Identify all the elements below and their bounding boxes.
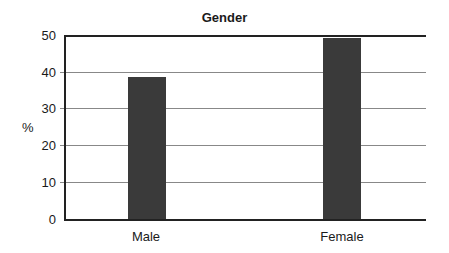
- gridline-10: [64, 182, 426, 183]
- y-tick-label: 0: [16, 213, 56, 226]
- y-axis: [64, 35, 66, 220]
- gridline-50: [64, 35, 426, 37]
- y-tick-label: 50: [16, 29, 56, 42]
- bar-male: [128, 77, 166, 219]
- y-axis-label: %: [22, 120, 34, 135]
- chart-title: Gender: [0, 10, 449, 25]
- x-axis: [64, 219, 426, 221]
- y-tick-label: 40: [16, 66, 56, 79]
- gridline-40: [64, 72, 426, 73]
- x-tick-label-male: Male: [106, 229, 186, 244]
- bar-female: [323, 38, 361, 219]
- y-tick-label: 20: [16, 139, 56, 152]
- gridline-30: [64, 108, 426, 109]
- y-tick-label: 30: [16, 102, 56, 115]
- gridline-20: [64, 145, 426, 146]
- y-tick-label: 10: [16, 176, 56, 189]
- x-tick-label-female: Female: [302, 229, 382, 244]
